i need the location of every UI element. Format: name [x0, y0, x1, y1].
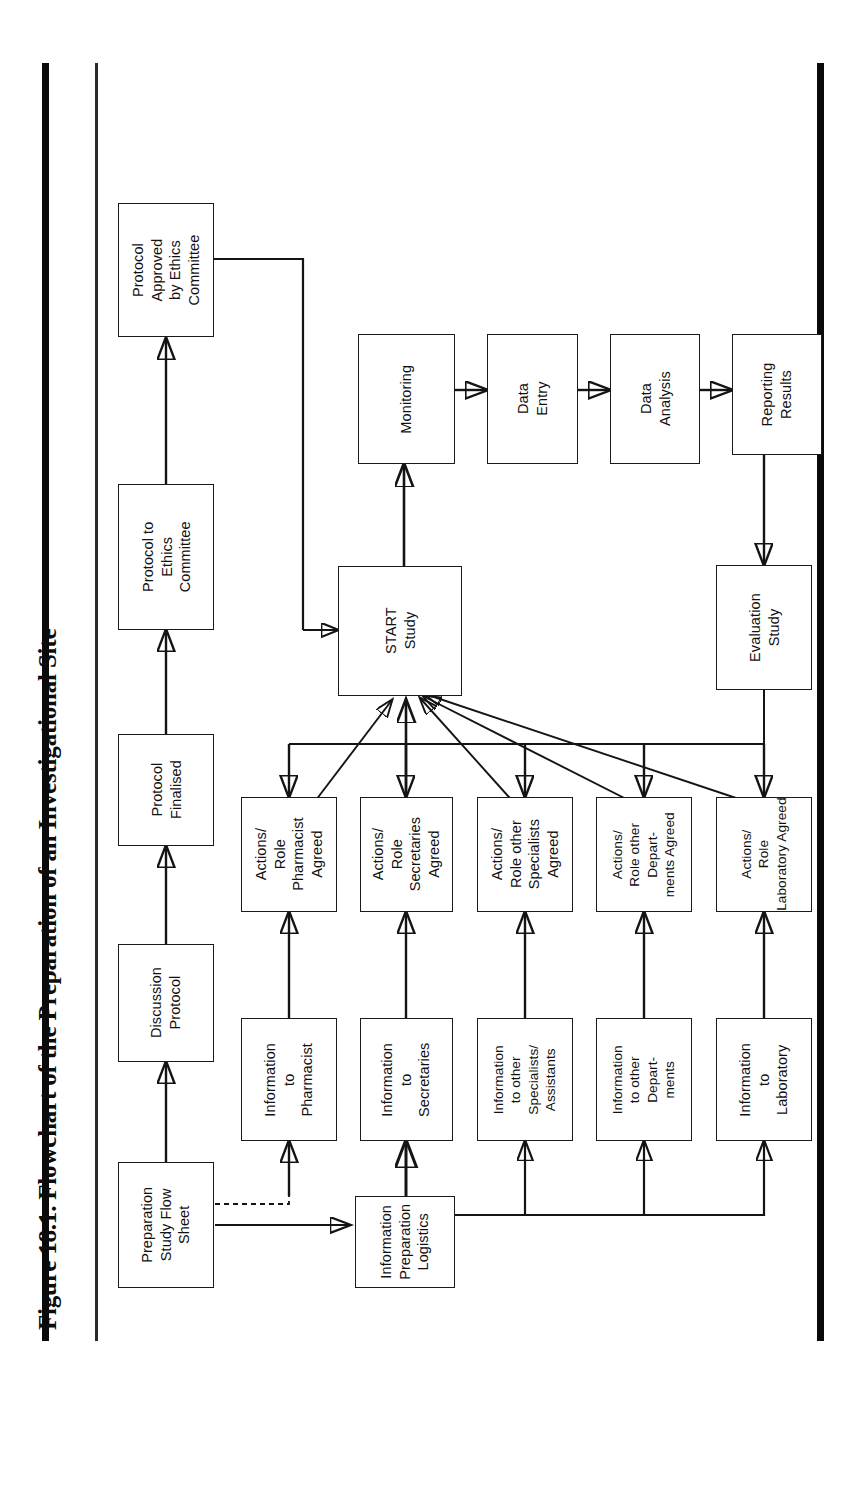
node-information-to-secretaries[interactable]: InformationtoSecretaries: [360, 1018, 453, 1141]
node-protocol-to-ethics[interactable]: Protocol toEthicsCommittee: [118, 484, 214, 630]
node-label: ReportingResults: [758, 363, 795, 427]
edge-act-departments-to-start: [423, 696, 640, 806]
node-information-preparation-logistics[interactable]: InformationPreparationLogistics: [355, 1196, 455, 1288]
node-label: EvaluationStudy: [745, 593, 782, 662]
node-label: InformationtoSecretaries: [379, 1042, 435, 1116]
node-data-entry[interactable]: DataEntry: [487, 334, 578, 464]
edge-prep-riser-to-info-pharmacist: [215, 1141, 289, 1204]
figure-caption: Figure 18.1. Flowchart of the Preparatio…: [34, 629, 62, 1330]
distribution-bus: [289, 690, 764, 744]
node-label: Actions/RoleLaboratory Agreed: [738, 798, 790, 912]
node-preparation-study-flow-sheet[interactable]: PreparationStudy FlowSheet: [118, 1162, 214, 1288]
node-information-to-pharmacist[interactable]: InformationtoPharmacist: [241, 1018, 337, 1141]
node-discussion-protocol[interactable]: DiscussionProtocol: [118, 944, 214, 1062]
edge-logistics-to-info-departments: [455, 1141, 644, 1215]
node-protocol-approved[interactable]: ProtocolApprovedby EthicsCommittee: [118, 203, 214, 337]
node-label: DataAnalysis: [636, 372, 673, 427]
node-label: Actions/Role otherSpecialistsAgreed: [488, 819, 562, 889]
node-label: Actions/RoleSecretariesAgreed: [369, 817, 443, 891]
node-monitoring[interactable]: Monitoring: [358, 334, 455, 464]
node-label: Actions/Role otherDepart-ments Agreed: [609, 812, 679, 897]
figure-page: Figure 18.1. Flowchart of the Preparatio…: [0, 0, 862, 1485]
node-label: ProtocolApprovedby EthicsCommittee: [129, 235, 203, 306]
edge-logistics-to-info-laboratory: [455, 1141, 764, 1215]
node-label: PreparationStudy FlowSheet: [138, 1187, 194, 1263]
node-actions-role-secretaries[interactable]: Actions/RoleSecretariesAgreed: [360, 797, 453, 912]
edge-act-pharmacist-to-start: [316, 700, 392, 800]
node-actions-role-laboratory[interactable]: Actions/RoleLaboratory Agreed: [716, 797, 812, 912]
edge-logistics-to-info-specialists: [455, 1141, 525, 1215]
node-label: Informationto otherDepart-ments: [609, 1045, 679, 1114]
node-label: STARTStudy: [381, 608, 418, 655]
node-label: Monitoring: [397, 365, 416, 434]
node-label: InformationtoPharmacist: [261, 1043, 317, 1117]
node-protocol-finalised[interactable]: ProtocolFinalised: [118, 734, 214, 846]
node-reporting-results[interactable]: ReportingResults: [732, 334, 822, 455]
edge-approved-elbow: [214, 259, 303, 630]
node-label: Actions/RolePharmacistAgreed: [252, 818, 326, 892]
node-label: ProtocolFinalised: [147, 761, 184, 820]
node-start-study[interactable]: STARTStudy: [338, 566, 462, 696]
node-label: DataEntry: [514, 382, 551, 416]
node-information-to-other-specialists[interactable]: Informationto otherSpecialists/Assistant…: [477, 1018, 573, 1141]
node-actions-role-other-departments[interactable]: Actions/Role otherDepart-ments Agreed: [596, 797, 692, 912]
heavy-right-rule: [817, 63, 824, 1341]
node-label: InformationPreparationLogistics: [377, 1204, 433, 1280]
edge-act-laboratory-to-start: [425, 694, 760, 806]
node-actions-role-other-specialists[interactable]: Actions/Role otherSpecialistsAgreed: [477, 797, 573, 912]
node-information-to-laboratory[interactable]: InformationtoLaboratory: [716, 1018, 812, 1141]
node-label: Informationto otherSpecialists/Assistant…: [490, 1045, 560, 1115]
node-information-to-other-departments[interactable]: Informationto otherDepart-ments: [596, 1018, 692, 1141]
node-label: DiscussionProtocol: [147, 967, 184, 1038]
node-label: Protocol toEthicsCommittee: [138, 521, 194, 592]
node-data-analysis[interactable]: DataAnalysis: [610, 334, 700, 464]
node-label: InformationtoLaboratory: [736, 1043, 792, 1117]
edge-act-specialists-to-start: [420, 698, 517, 806]
thin-left-rule: [95, 63, 98, 1341]
node-evaluation-study[interactable]: EvaluationStudy: [716, 565, 812, 690]
node-actions-role-pharmacist[interactable]: Actions/RolePharmacistAgreed: [241, 797, 337, 912]
